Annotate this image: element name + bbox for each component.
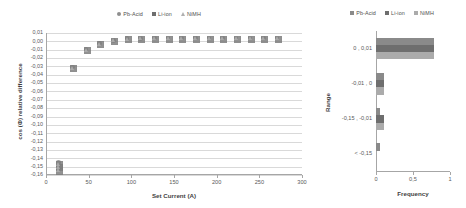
scatter-x-axis-title: Set Current (A)	[46, 192, 302, 199]
bar	[376, 73, 384, 80]
scatter-point	[193, 36, 197, 40]
x-tick-label: 200	[202, 180, 232, 186]
scatter-point	[220, 36, 224, 40]
scatter-point	[261, 36, 265, 40]
scatter-chart: Pb-Acid Li-ion NiMH 0,010,00-0,01-0,02-0…	[0, 0, 318, 208]
bar-group	[376, 108, 450, 130]
bar-legend-label-pb-acid: Pb-Acid	[356, 10, 376, 16]
legend-entry-li-ion: Li-ion	[152, 11, 172, 17]
gridline	[46, 100, 302, 101]
scatter-point	[234, 36, 238, 40]
gridline	[46, 108, 302, 109]
gridline	[46, 125, 302, 126]
frequency-bar-chart: Pb-Acid Li-ion NiMH 0 , 0,01-0,01 , 0-0,…	[318, 0, 466, 208]
x-axis-tick	[174, 175, 175, 178]
x-axis-tick	[217, 175, 218, 178]
x-tick-label: 0	[31, 180, 61, 186]
bar	[376, 38, 434, 45]
gridline	[46, 133, 302, 134]
gridline	[46, 91, 302, 92]
scatter-y-axis-title: cos (Φ) relative difference	[16, 47, 23, 157]
bar	[376, 45, 434, 52]
bar-x-tick-label: 1	[440, 177, 460, 183]
scatter-point	[166, 36, 170, 40]
bar-legend-label-li-ion: Li-ion	[391, 10, 405, 16]
scatter-plot-area	[46, 33, 302, 175]
scatter-point	[275, 36, 279, 40]
bar-legend-entry-li-ion: Li-ion	[385, 10, 405, 16]
x-axis-tick	[46, 175, 47, 178]
y-tick-label: -0,15	[12, 164, 43, 169]
bar-x-axis-tick	[450, 172, 451, 175]
y-tick-label: 0,00	[12, 39, 43, 44]
bar	[376, 143, 380, 150]
y-tick-label: 0,01	[12, 30, 43, 35]
bar-legend-label-nimh: NiMH	[420, 10, 434, 16]
bar-group	[376, 143, 450, 165]
bar-category-label: < -0,15	[318, 151, 372, 157]
x-tick-label: 50	[74, 180, 104, 186]
x-axis-tick	[259, 175, 260, 178]
legend-label-nimh: NiMH	[187, 11, 201, 17]
gridline	[46, 58, 302, 59]
y-tick-label: -0,16	[12, 172, 43, 177]
gridline	[46, 158, 302, 159]
square-marker-icon	[152, 12, 156, 16]
legend-label-pb-acid: Pb-Acid	[123, 11, 143, 17]
gridline	[46, 117, 302, 118]
x-axis-tick	[131, 175, 132, 178]
bar-legend-entry-pb-acid: Pb-Acid	[350, 10, 376, 16]
scatter-point	[111, 38, 115, 42]
x-axis-tick	[302, 175, 303, 178]
x-axis-tick	[89, 175, 90, 178]
bar	[376, 115, 384, 122]
x-tick-label: 150	[159, 180, 189, 186]
bar-legend-entry-nimh: NiMH	[414, 10, 434, 16]
gridline	[46, 66, 302, 67]
bar-x-tick-label: 0,5	[403, 177, 423, 183]
scatter-point	[248, 36, 252, 40]
bar-x-axis-tick	[376, 172, 377, 175]
scatter-point	[56, 168, 60, 172]
scatter-point	[207, 36, 211, 40]
gridline	[46, 75, 302, 76]
bar-legend: Pb-Acid Li-ion NiMH	[318, 10, 466, 16]
gridline	[46, 83, 302, 84]
gridline	[46, 167, 302, 168]
figure-canvas: Pb-Acid Li-ion NiMH 0,010,00-0,01-0,02-0…	[0, 0, 466, 208]
bar	[376, 108, 380, 115]
scatter-point	[152, 36, 156, 40]
bar-group	[376, 73, 450, 95]
bar	[376, 87, 384, 94]
square-marker-icon	[414, 11, 418, 15]
bar-group	[376, 38, 450, 60]
square-marker-icon	[350, 11, 354, 15]
gridline	[46, 142, 302, 143]
bar-category-label: 0 , 0,01	[318, 46, 372, 52]
scatter-point	[84, 48, 88, 52]
scatter-legend: Pb-Acid Li-ion NiMH	[0, 11, 318, 17]
scatter-point	[70, 66, 74, 70]
scatter-point	[179, 36, 183, 40]
scatter-point	[97, 42, 101, 46]
x-tick-label: 250	[244, 180, 274, 186]
triangle-marker-icon	[181, 12, 185, 16]
x-tick-label: 100	[116, 180, 146, 186]
circle-marker-icon	[117, 12, 121, 16]
square-marker-icon	[385, 11, 389, 15]
gridline	[46, 150, 302, 151]
scatter-point	[125, 37, 129, 41]
bar-x-axis-title: Frequency	[376, 190, 450, 197]
legend-entry-nimh: NiMH	[181, 11, 201, 17]
scatter-point	[138, 36, 142, 40]
legend-label-li-ion: Li-ion	[158, 11, 172, 17]
x-tick-label: 300	[287, 180, 317, 186]
bar	[376, 80, 384, 87]
bar-y-axis-title: Range	[324, 78, 331, 128]
legend-entry-pb-acid: Pb-Acid	[117, 11, 143, 17]
y-axis-line	[46, 33, 47, 175]
bar-x-tick-label: 0	[366, 177, 386, 183]
bar	[376, 52, 434, 59]
bar-x-axis-tick	[413, 172, 414, 175]
gridline	[46, 33, 302, 34]
